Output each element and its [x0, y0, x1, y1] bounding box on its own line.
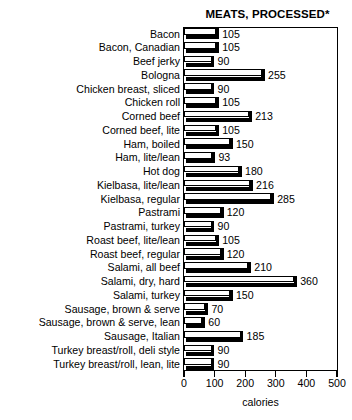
bar-end-cap — [212, 152, 215, 163]
bar-row: Salami, dry, hard360 — [0, 275, 352, 289]
bar-shadow — [186, 132, 217, 136]
bar-shadow — [186, 256, 221, 260]
bar-value-label: 210 — [254, 261, 272, 273]
bar-end-cap — [294, 276, 297, 287]
bar-value-label: 105 — [222, 96, 240, 108]
category-label: Roast beef, lite/lean — [86, 234, 180, 246]
bar-end-cap — [229, 138, 232, 149]
category-label: Sausage, brown & serve, lean — [39, 316, 180, 328]
bar-row: Beef jerky90 — [0, 55, 352, 69]
x-tick-label: 500 — [328, 377, 346, 389]
x-tick-label: 400 — [298, 377, 316, 389]
bar-value-label: 255 — [268, 69, 286, 81]
bar-value-label: 90 — [218, 358, 230, 370]
bar-shadow — [186, 145, 230, 149]
bar-shadow — [186, 214, 221, 218]
bar — [184, 290, 230, 302]
bar-shadow — [186, 77, 262, 81]
bar-end-cap — [229, 290, 232, 301]
category-label: Roast beef, regular — [90, 248, 180, 260]
bar — [184, 248, 221, 260]
x-tick-label: 0 — [181, 377, 187, 389]
bar-row: Turkey breast/roll, deli style90 — [0, 343, 352, 357]
bar-shadow — [186, 338, 241, 342]
bar — [184, 125, 216, 137]
bar-shadow — [186, 283, 295, 287]
bar-row: Corned beef, lite105 — [0, 123, 352, 137]
category-label: Turkey breast/roll, deli style — [51, 344, 180, 356]
x-tick — [275, 371, 276, 377]
bar — [184, 138, 230, 150]
bar-body — [184, 221, 212, 228]
category-label: Turkey breast/roll, lean, lite — [53, 358, 180, 370]
bar-body — [184, 152, 212, 159]
category-label: Corned beef, lite — [102, 124, 180, 136]
bar-shadow — [186, 269, 249, 273]
bar-row: Sausage, Italian185 — [0, 330, 352, 344]
bar-row: Roast beef, lite/lean105 — [0, 233, 352, 247]
bar-shadow — [186, 366, 212, 370]
bar-value-label: 105 — [222, 28, 240, 40]
bar-end-cap — [216, 125, 219, 136]
bar-value-label: 285 — [277, 193, 295, 205]
bar-row: Sausage, brown & serve, lean60 — [0, 316, 352, 330]
bar-value-label: 105 — [222, 41, 240, 53]
bar-value-label: 150 — [236, 138, 254, 150]
bar-value-label: 213 — [255, 110, 273, 122]
bar-end-cap — [211, 221, 214, 232]
category-label: Pastrami — [138, 206, 180, 218]
bar-row: Pastrami120 — [0, 206, 352, 220]
category-label: Sausage, brown & serve — [65, 303, 180, 315]
category-label: Kielbasa, lite/lean — [97, 179, 180, 191]
bar — [184, 235, 216, 247]
bar-body — [184, 125, 216, 132]
bar-body — [184, 69, 262, 76]
bar-row: Chicken breast, sliced90 — [0, 82, 352, 96]
x-tick — [306, 371, 307, 377]
bar-body — [184, 345, 212, 352]
bar-body — [184, 180, 250, 187]
bar-end-cap — [220, 248, 223, 259]
bar-shadow — [186, 311, 206, 315]
category-label: Chicken roll — [125, 96, 180, 108]
bar-end-cap — [205, 303, 208, 314]
bar-row: Sausage, brown & serve70 — [0, 302, 352, 316]
bar — [184, 56, 212, 68]
x-axis-tick-labels: 0100200300400500 — [0, 377, 352, 391]
bar-body — [184, 235, 216, 242]
bar-shadow — [186, 35, 217, 39]
bar-row: Bacon, Canadian105 — [0, 41, 352, 55]
bar-shadow — [186, 49, 217, 53]
category-label: Kielbasa, regular — [101, 193, 181, 205]
bar-shadow — [186, 118, 250, 122]
bar-shadow — [186, 200, 272, 204]
bar-body — [184, 28, 216, 35]
bar-value-label: 70 — [211, 303, 223, 315]
bar-row: Salami, turkey150 — [0, 288, 352, 302]
bar-body — [184, 83, 212, 90]
bar-value-label: 150 — [236, 289, 254, 301]
x-tick-label: 200 — [236, 377, 254, 389]
bar-body — [184, 303, 205, 310]
category-label: Bacon — [150, 28, 180, 40]
bar-end-cap — [249, 180, 252, 191]
bar — [184, 28, 216, 40]
bar-row: Kielbasa, lite/lean216 — [0, 178, 352, 192]
bar-shadow — [186, 297, 230, 301]
bar-row: Hot dog180 — [0, 165, 352, 179]
bar-body — [184, 276, 294, 283]
bar-shadow — [186, 159, 213, 163]
bar — [184, 166, 239, 178]
bar-row: Bacon105 — [0, 27, 352, 41]
x-tick — [245, 371, 246, 377]
bar — [184, 207, 221, 219]
bar-row: Roast beef, regular120 — [0, 247, 352, 261]
bar-end-cap — [261, 69, 264, 80]
bar-shadow — [186, 90, 212, 94]
bar-body — [184, 358, 212, 365]
bar-chart: MEATS, PROCESSED* Bacon105Bacon, Canadia… — [0, 0, 352, 420]
bar-value-label: 120 — [227, 248, 245, 260]
bar-end-cap — [211, 83, 214, 94]
chart-title: MEATS, PROCESSED* — [183, 8, 352, 20]
bar-end-cap — [216, 42, 219, 53]
